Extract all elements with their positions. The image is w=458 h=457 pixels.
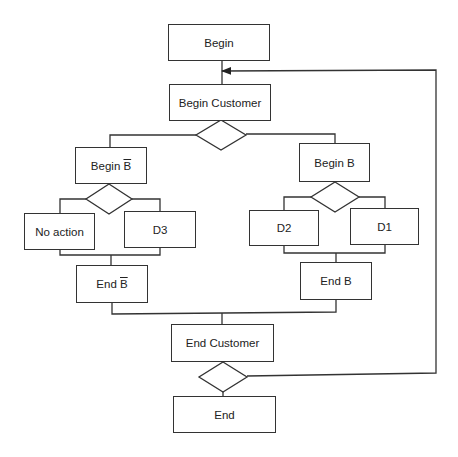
end-not-b-label: End B [96,278,127,290]
end-customer-label: End Customer [186,337,260,349]
end-customer-box: End Customer [171,324,274,362]
end-not-b-box: End B [76,265,148,303]
d2-box: D2 [249,210,319,246]
begin-label: Begin [204,37,233,49]
begin-not-b-label: Begin B [91,160,131,172]
end-b-label: End B [320,275,351,287]
no-action-label: No action [35,226,84,238]
begin-box: Begin [168,24,270,61]
begin-customer-box: Begin Customer [169,84,271,121]
begin-b-label: Begin B [314,157,354,169]
d2-label: D2 [277,222,292,234]
d3-label: D3 [153,224,168,236]
end-label: End [214,409,234,421]
customer-branch-decision [196,120,246,150]
begin-b-box: Begin B [299,143,370,182]
not-b-decision [86,184,132,214]
end-b-box: End B [300,262,372,300]
end-box: End [173,396,276,433]
begin-not-b-box: Begin B [75,147,147,184]
loop-decision [199,362,247,392]
d3-box: D3 [124,211,196,248]
flowchart: Begin Begin Customer Begin B No action D… [0,0,458,457]
d1-box: D1 [350,208,419,245]
no-action-box: No action [24,213,95,250]
begin-customer-label: Begin Customer [179,97,261,109]
d1-label: D1 [377,221,392,233]
